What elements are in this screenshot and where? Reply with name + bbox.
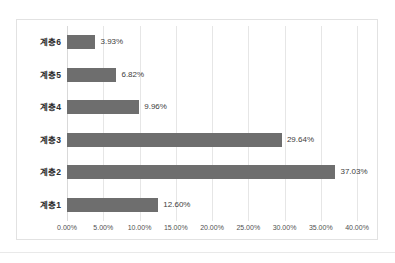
category-label: 계층3 — [17, 133, 61, 147]
x-axis-tick-label: 25.00% — [236, 224, 260, 231]
bar-value-label: 3.93% — [100, 35, 123, 49]
x-axis-tick-label: 35.00% — [309, 224, 333, 231]
x-axis-tick-label: 30.00% — [273, 224, 297, 231]
bar-row: 계층56.82% — [67, 68, 357, 82]
bar[interactable] — [67, 198, 158, 212]
bar[interactable] — [67, 165, 335, 179]
x-axis-tick-label: 10.00% — [128, 224, 152, 231]
bar-value-label: 37.03% — [340, 165, 367, 179]
bar-row: 계층329.64% — [67, 133, 357, 147]
gridline-4000 — [357, 26, 358, 221]
x-axis-tick-label: 40.00% — [345, 224, 369, 231]
category-label: 계층5 — [17, 68, 61, 82]
bar-value-label: 9.96% — [144, 100, 167, 114]
bar-row: 계층63.93% — [67, 35, 357, 49]
page-separator — [0, 252, 395, 253]
x-axis-tick-labels: 0.00%5.00%10.00%15.00%20.00%25.00%30.00%… — [67, 224, 357, 238]
category-label: 계층2 — [17, 165, 61, 179]
bar-value-label: 29.64% — [287, 133, 314, 147]
bar-value-label: 6.82% — [121, 68, 144, 82]
bar-row: 계층112.60% — [67, 198, 357, 212]
x-axis-tick-label: 15.00% — [164, 224, 188, 231]
bar-rows: 계층63.93%계층56.82%계층49.96%계층329.64%계층237.0… — [67, 26, 357, 221]
chart-container: 계층63.93%계층56.82%계층49.96%계층329.64%계층237.0… — [16, 19, 378, 240]
category-label: 계층4 — [17, 100, 61, 114]
page-root: 계층63.93%계층56.82%계층49.96%계층329.64%계층237.0… — [0, 0, 395, 263]
x-axis-tick-label: 5.00% — [93, 224, 113, 231]
bar-value-label: 12.60% — [163, 198, 190, 212]
x-axis-tick-label: 20.00% — [200, 224, 224, 231]
bar-row: 계층237.03% — [67, 165, 357, 179]
bar[interactable] — [67, 133, 282, 147]
bar-row: 계층49.96% — [67, 100, 357, 114]
bar[interactable] — [67, 35, 95, 49]
category-label: 계층1 — [17, 198, 61, 212]
bar[interactable] — [67, 100, 139, 114]
bar[interactable] — [67, 68, 116, 82]
plot-area: 계층63.93%계층56.82%계층49.96%계층329.64%계층237.0… — [67, 26, 357, 221]
x-axis-tick-label: 0.00% — [57, 224, 77, 231]
category-label: 계층6 — [17, 35, 61, 49]
